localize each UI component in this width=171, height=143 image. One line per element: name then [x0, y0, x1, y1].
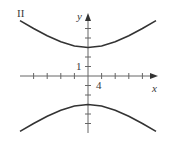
hyperbola-chart: II y x 1 4: [0, 0, 171, 143]
x-axis-arrow-icon: [150, 73, 158, 79]
panel-label: II: [17, 7, 25, 19]
y-axis-arrow-icon: [85, 13, 91, 21]
x-axis-label: x: [151, 82, 157, 94]
y-tick-label: 1: [76, 60, 82, 72]
y-axis-label: y: [76, 10, 82, 22]
x-tick-label: 4: [96, 79, 102, 91]
